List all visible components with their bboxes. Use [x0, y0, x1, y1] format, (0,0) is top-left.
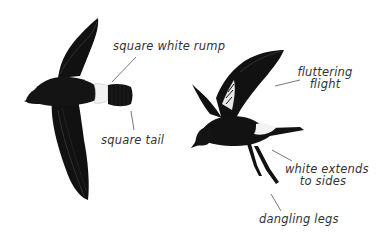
label-white-extends-to-sides: white extends to sides — [285, 163, 361, 187]
label-white-extends-line2: to sides — [285, 175, 361, 187]
label-fluttering-flight: fluttering flight — [296, 66, 354, 90]
leader-tail — [131, 111, 134, 130]
label-square-tail: square tail — [101, 134, 164, 146]
label-square-white-rump: square white rump — [113, 40, 225, 52]
leader-sides — [272, 150, 292, 161]
illustration-canvas: square white rump square tail fluttering… — [0, 0, 381, 240]
label-fluttering-flight-line2: flight — [296, 78, 354, 90]
bird-illustrations — [0, 0, 381, 240]
leader-rump — [112, 57, 136, 82]
leader-legs — [271, 194, 281, 211]
label-dangling-legs: dangling legs — [259, 213, 339, 225]
